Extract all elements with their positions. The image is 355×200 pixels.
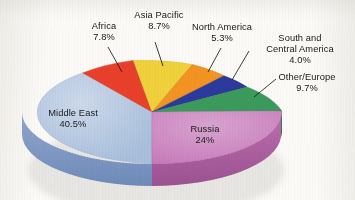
- label-other-europe-value: 9.7%: [266, 83, 348, 94]
- label-middle-east-value: 40.5%: [33, 119, 113, 130]
- label-asia-pacific-name: Asia Pacific: [118, 10, 200, 21]
- label-africa-value: 7.8%: [74, 32, 134, 43]
- label-other-europe: Other/Europe 9.7%: [266, 72, 348, 94]
- label-north-america-name: North America: [180, 22, 264, 33]
- leader-line-south-central-america: [232, 51, 249, 80]
- label-russia: Russia 24%: [175, 124, 235, 146]
- pie-chart: Africa 7.8% Asia Pacific 8.7% North Amer…: [0, 0, 355, 200]
- label-middle-east-name: Middle East: [33, 108, 113, 119]
- label-russia-name: Russia: [175, 124, 235, 135]
- label-other-europe-name: Other/Europe: [266, 72, 348, 83]
- label-middle-east: Middle East 40.5%: [33, 108, 113, 130]
- label-south-central-america-line2: Central America: [250, 44, 350, 55]
- label-south-central-america-line1: South and: [250, 33, 350, 44]
- label-south-central-america: South and Central America 4.0%: [250, 33, 350, 66]
- label-russia-value: 24%: [175, 135, 235, 146]
- leader-line-north-america: [208, 48, 221, 72]
- label-south-central-america-value: 4.0%: [250, 55, 350, 66]
